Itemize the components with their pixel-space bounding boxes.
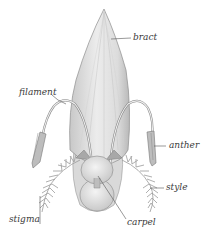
label-bract: bract <box>133 33 157 42</box>
bract-shape <box>70 9 130 165</box>
floret-illustration <box>0 0 203 239</box>
label-filament: filament <box>19 88 57 97</box>
label-style: style <box>166 183 188 192</box>
label-carpel: carpel <box>127 218 156 227</box>
label-stigma: stigma <box>9 215 40 224</box>
label-anther: anther <box>169 141 199 150</box>
floret-diagram: bract filament anther style stigma carpe… <box>0 0 203 239</box>
